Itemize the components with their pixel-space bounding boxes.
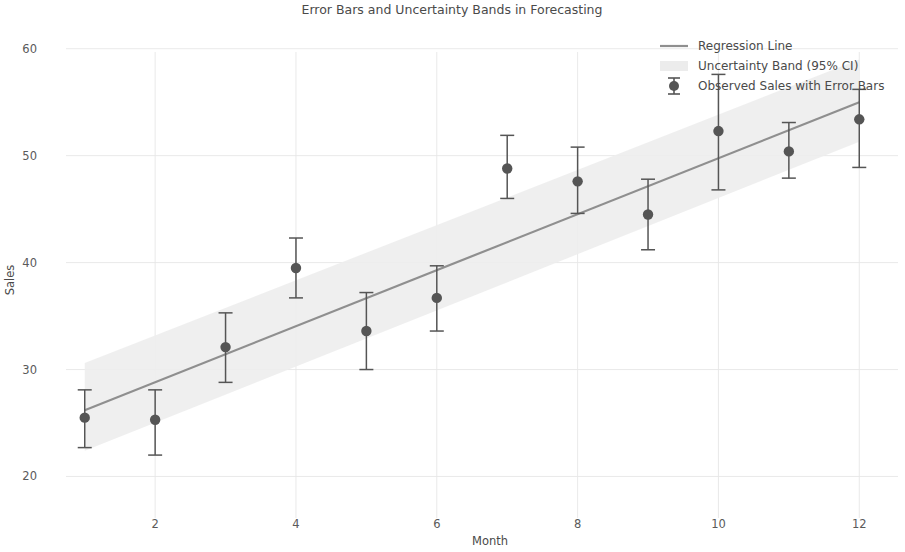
y-tick-label: 30: [22, 363, 37, 377]
legend-label: Uncertainty Band (95% CI): [698, 59, 858, 73]
data-point: [713, 126, 723, 136]
data-point: [80, 412, 90, 422]
data-point: [150, 415, 160, 425]
y-axis-label: Sales: [3, 265, 17, 296]
forecast-chart-svg: Error Bars and Uncertainty Bands in Fore…: [0, 0, 905, 552]
y-tick-label: 20: [22, 469, 37, 483]
x-tick-label: 6: [433, 517, 440, 531]
data-point: [572, 176, 582, 186]
x-tick-label: 10: [711, 517, 726, 531]
x-tick-label: 2: [151, 517, 158, 531]
x-axis-label: Month: [472, 534, 508, 548]
data-point: [502, 163, 512, 173]
legend-label: Regression Line: [698, 39, 792, 53]
data-point: [220, 342, 230, 352]
x-tick-label: 4: [292, 517, 299, 531]
data-point: [784, 146, 794, 156]
chart-figure: Error Bars and Uncertainty Bands in Fore…: [0, 0, 905, 552]
y-tick-label: 50: [22, 149, 37, 163]
data-point: [291, 263, 301, 273]
legend-item[interactable]: Observed Sales with Error Bars: [668, 78, 884, 94]
x-tick-label: 12: [852, 517, 867, 531]
legend-label: Observed Sales with Error Bars: [698, 79, 884, 93]
x-tick-label: 8: [574, 517, 581, 531]
y-tick-label: 60: [22, 42, 37, 56]
data-point: [432, 293, 442, 303]
data-point: [854, 114, 864, 124]
chart-title: Error Bars and Uncertainty Bands in Fore…: [302, 2, 603, 17]
data-point: [361, 326, 371, 336]
data-point: [643, 209, 653, 219]
y-tick-label: 40: [22, 256, 37, 270]
